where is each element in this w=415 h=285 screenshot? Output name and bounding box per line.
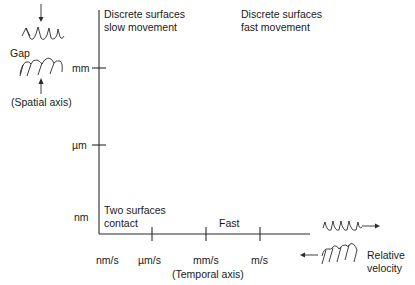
upper-surface-gap-icon [22, 4, 64, 39]
region-top-right-line1: Discrete surfaces [241, 8, 322, 21]
gap-label: Gap [10, 47, 30, 59]
region-bottom-right: Fast [219, 217, 239, 230]
x-axis-title: (Temporal axis) [172, 268, 244, 280]
x-tick-label-um-s: µm/s [138, 254, 161, 266]
region-top-left-line1: Discrete surfaces [104, 8, 185, 21]
y-tick-label-nm: nm [74, 211, 89, 223]
region-top-left: Discrete surfaces slow movement [104, 8, 185, 33]
region-top-right: Discrete surfaces fast movement [241, 8, 322, 33]
diagram-canvas [0, 0, 415, 285]
relative-velocity-label: Relative velocity [367, 249, 405, 274]
region-top-right-line2: fast movement [241, 21, 322, 34]
lower-surface-velocity-icon [300, 244, 357, 264]
relative-velocity-line2: velocity [367, 262, 405, 275]
x-tick-label-nm-s: nm/s [96, 254, 119, 266]
region-bottom-left-line1: Two surfaces [104, 204, 166, 217]
region-top-left-line2: slow movement [104, 21, 185, 34]
y-tick-label-um: µm [72, 139, 87, 151]
x-tick-label-mm-s: mm/s [193, 254, 219, 266]
x-tick-label-m-s: m/s [251, 254, 268, 266]
upper-surface-velocity-icon [323, 221, 380, 230]
region-bottom-left-line2: contact [104, 217, 166, 230]
region-bottom-left: Two surfaces contact [104, 204, 166, 229]
y-axis-title: (Spatial axis) [11, 96, 72, 108]
lower-surface-gap-icon [20, 58, 62, 94]
relative-velocity-line1: Relative [367, 249, 405, 262]
y-tick-label-mm: mm [72, 62, 90, 74]
